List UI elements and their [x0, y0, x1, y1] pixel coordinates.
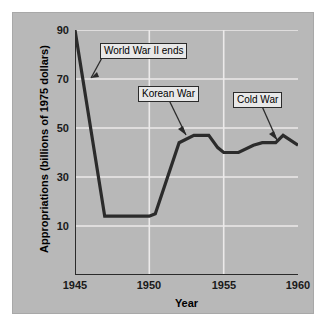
- annotation-korean-war: Korean War: [138, 86, 199, 102]
- chart-figure: Appropriations (billions of 1975 dollars…: [0, 0, 326, 332]
- plot-area: World War II ends Korean War Cold War: [75, 30, 298, 275]
- y-tick-label-50: 50: [43, 123, 69, 134]
- annotation-ww2-ends: World War II ends: [100, 43, 187, 59]
- y-tick-label-90: 90: [43, 25, 69, 36]
- x-tick-label-1950: 1950: [129, 279, 169, 291]
- horizontal-gridlines: [75, 30, 298, 226]
- y-axis-title: Appropriations (billions of 1975 dollars…: [38, 24, 50, 274]
- y-tick-label-30: 30: [43, 172, 69, 183]
- y-tick-label-10: 10: [43, 221, 69, 232]
- x-axis-title: Year: [75, 297, 298, 309]
- plot-svg: [75, 30, 298, 275]
- y-tick-label-70: 70: [43, 74, 69, 85]
- axis-spines: [75, 30, 298, 275]
- x-tick-label-1945: 1945: [55, 279, 95, 291]
- x-tick-label-1955: 1955: [204, 279, 244, 291]
- chart-panel: Appropriations (billions of 1975 dollars…: [13, 13, 313, 313]
- annotation-cold-war: Cold War: [233, 92, 282, 108]
- vertical-gridlines: [149, 30, 223, 275]
- x-tick-label-1960: 1960: [278, 279, 318, 291]
